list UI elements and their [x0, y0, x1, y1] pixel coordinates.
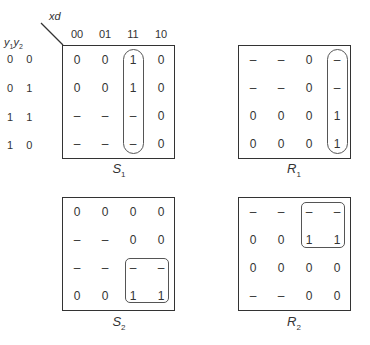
- cell: 0: [91, 198, 119, 226]
- cell: –: [63, 102, 91, 130]
- cell: –: [267, 282, 295, 310]
- cell: 0: [147, 74, 175, 102]
- cell: 0: [147, 46, 175, 74]
- cell: 0: [239, 102, 267, 130]
- cell: –: [91, 102, 119, 130]
- cell: –: [267, 198, 295, 226]
- cell: 0: [147, 226, 175, 254]
- cell: –: [91, 226, 119, 254]
- cell: 0: [239, 254, 267, 282]
- group-loop: [327, 49, 348, 154]
- cell: –: [63, 130, 91, 158]
- cell: –: [239, 282, 267, 310]
- column-header-01: 01: [91, 28, 119, 40]
- row-header-11: 1 1: [7, 111, 37, 123]
- cell: –: [239, 46, 267, 74]
- group-loop: [301, 202, 345, 248]
- cell: 0: [91, 74, 119, 102]
- map-label-s1: S1: [99, 161, 139, 179]
- cell: 0: [147, 130, 175, 158]
- cell: 0: [323, 254, 351, 282]
- kmap-s2: 0 0 0 0 – – 0 0 – – – – 0 0 1 1: [62, 197, 175, 311]
- cell: 0: [295, 46, 323, 74]
- kmap-r1: – – 0 – – – 0 – 0 0 0 1 0 0 0 1: [238, 45, 351, 159]
- cell: 0: [267, 130, 295, 158]
- cell: 0: [63, 74, 91, 102]
- cell: 0: [147, 198, 175, 226]
- map-label-r2: R2: [274, 314, 314, 332]
- row-header-00: 0 0: [7, 53, 37, 65]
- cell: 0: [295, 254, 323, 282]
- cell: –: [91, 130, 119, 158]
- cell: 0: [295, 102, 323, 130]
- cell: 0: [239, 130, 267, 158]
- row-header-01: 0 1: [7, 82, 37, 94]
- cell: 0: [119, 198, 147, 226]
- cell: 0: [63, 46, 91, 74]
- cell: 0: [91, 46, 119, 74]
- group-loop: [123, 49, 144, 154]
- column-header-10: 10: [147, 28, 175, 40]
- row-variable-label: y1y2: [4, 36, 23, 50]
- cell: 0: [267, 102, 295, 130]
- cell: 0: [267, 226, 295, 254]
- cell: –: [63, 254, 91, 282]
- cell: 0: [91, 282, 119, 310]
- group-loop: [125, 258, 169, 303]
- cell: –: [267, 46, 295, 74]
- cell: 0: [63, 282, 91, 310]
- cell: –: [239, 74, 267, 102]
- map-label-s2: S2: [99, 314, 139, 332]
- cell: 0: [295, 282, 323, 310]
- cell: 0: [295, 74, 323, 102]
- row-header-10: 1 0: [7, 139, 37, 151]
- kmap-r2: – – – – 0 0 1 1 0 0 0 0 – – 0 0: [238, 197, 351, 311]
- column-header-11: 11: [119, 28, 147, 40]
- cell: 0: [295, 130, 323, 158]
- cell: –: [63, 226, 91, 254]
- cell: 0: [147, 102, 175, 130]
- cell: 0: [267, 254, 295, 282]
- kmap-s1: 0 0 1 0 0 0 1 0 – – – 0 – – – 0: [62, 45, 175, 159]
- cell: –: [91, 254, 119, 282]
- cell: 0: [63, 198, 91, 226]
- column-variable-label: xd: [49, 10, 61, 22]
- column-header-00: 00: [63, 28, 91, 40]
- cell: –: [267, 74, 295, 102]
- cell: –: [239, 198, 267, 226]
- cell: 0: [119, 226, 147, 254]
- map-label-r1: R1: [274, 161, 314, 179]
- cell: 0: [323, 282, 351, 310]
- cell: 0: [239, 226, 267, 254]
